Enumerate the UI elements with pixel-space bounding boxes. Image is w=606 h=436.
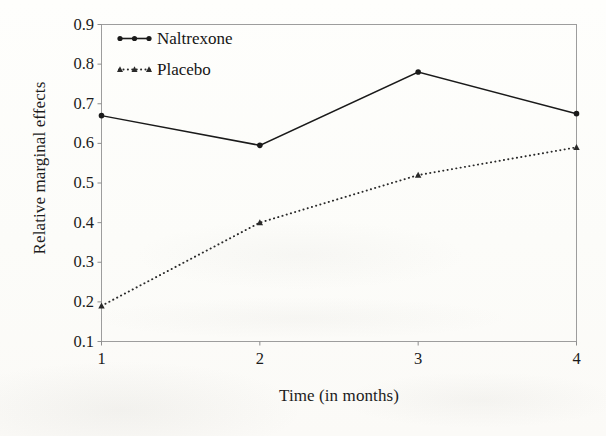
plot-area bbox=[0, 0, 606, 436]
legend-item-placebo: Placebo bbox=[157, 60, 211, 80]
data-series-layer bbox=[98, 69, 579, 308]
legend-item-naltrexone: Naltrexone bbox=[157, 29, 233, 49]
legend-markers bbox=[117, 36, 152, 72]
chart-figure: Relative marginal effects Time (in month… bbox=[0, 0, 606, 436]
